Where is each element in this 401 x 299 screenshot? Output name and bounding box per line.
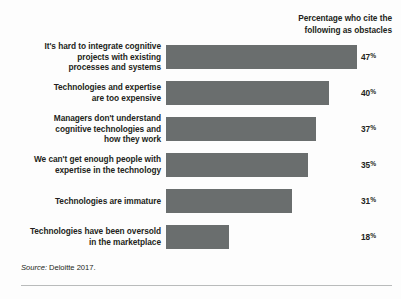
value-number: 37 <box>361 124 370 134</box>
bottom-divider <box>21 285 392 286</box>
source-label: Source: <box>21 263 47 272</box>
chart-row: It's hard to integrate cognitive project… <box>0 40 401 74</box>
bar <box>166 189 292 213</box>
category-label: Technologies have been oversold in the m… <box>8 226 161 247</box>
percent-symbol: % <box>370 196 376 203</box>
value-label: 47% <box>361 52 376 62</box>
bar-chart-figure: Percentage who cite the following as obs… <box>0 0 401 299</box>
percent-symbol: % <box>370 232 376 239</box>
source-note: Source: Deloitte 2017. <box>21 263 96 272</box>
percent-symbol: % <box>370 52 376 59</box>
bar-track <box>166 225 229 249</box>
bar <box>166 153 308 177</box>
value-label: 40% <box>361 88 376 98</box>
value-number: 18 <box>361 232 370 242</box>
bar-track <box>166 45 357 69</box>
bar <box>166 45 357 69</box>
chart-title-line-2: following as obstacles <box>212 25 392 37</box>
bar <box>166 117 316 141</box>
chart-title: Percentage who cite the following as obs… <box>212 13 392 36</box>
chart-title-line-1: Percentage who cite the <box>212 13 392 25</box>
chart-row: Technologies have been oversold in the m… <box>0 220 401 254</box>
value-number: 35 <box>361 160 370 170</box>
chart-row: Managers don't understand cognitive tech… <box>0 112 401 146</box>
category-label: Technologies and expertise are too expen… <box>8 82 161 103</box>
plot-area: It's hard to integrate cognitive project… <box>0 40 401 255</box>
value-number: 40 <box>361 88 370 98</box>
value-label: 31% <box>361 196 376 206</box>
percent-symbol: % <box>370 160 376 167</box>
percent-symbol: % <box>370 88 376 95</box>
chart-row: We can't get enough people with expertis… <box>0 148 401 182</box>
bar <box>166 225 229 249</box>
value-label: 37% <box>361 124 376 134</box>
bar-track <box>166 81 329 105</box>
category-label: It's hard to integrate cognitive project… <box>8 41 161 73</box>
value-label: 35% <box>361 160 376 170</box>
value-label: 18% <box>361 232 376 242</box>
category-label: We can't get enough people with expertis… <box>8 154 161 175</box>
value-number: 31 <box>361 196 370 206</box>
category-label: Technologies are immature <box>8 196 161 207</box>
bar-track <box>166 117 316 141</box>
bar-track <box>166 189 292 213</box>
percent-symbol: % <box>370 124 376 131</box>
category-label: Managers don't understand cognitive tech… <box>8 113 161 145</box>
value-number: 47 <box>361 52 370 62</box>
chart-row: Technologies are immature 31% <box>0 184 401 218</box>
source-value: Deloitte 2017. <box>47 263 96 272</box>
bar <box>166 81 329 105</box>
chart-row: Technologies and expertise are too expen… <box>0 76 401 110</box>
bar-track <box>166 153 308 177</box>
